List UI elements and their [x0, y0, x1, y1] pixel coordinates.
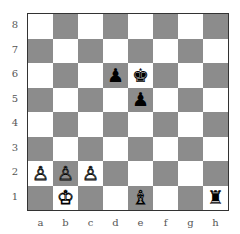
- square-g5[interactable]: [178, 88, 203, 113]
- square-a6[interactable]: [28, 63, 53, 88]
- white-pawn-icon[interactable]: ♙: [82, 164, 99, 183]
- square-e4[interactable]: [128, 112, 153, 137]
- chess-board: ♟♚♟♙♙♙♔♗♜: [27, 13, 229, 211]
- square-b2[interactable]: ♙: [53, 161, 78, 186]
- square-d6[interactable]: ♟: [103, 63, 128, 88]
- square-h1[interactable]: ♜: [203, 186, 228, 211]
- square-b5[interactable]: [53, 88, 78, 113]
- square-h7[interactable]: [203, 39, 228, 64]
- white-pawn-icon[interactable]: ♙: [57, 164, 74, 183]
- black-pawn-icon[interactable]: ♟: [132, 90, 149, 109]
- square-d1[interactable]: [103, 186, 128, 211]
- square-b6[interactable]: [53, 63, 78, 88]
- square-h4[interactable]: [203, 112, 228, 137]
- square-d8[interactable]: [103, 14, 128, 39]
- square-h8[interactable]: [203, 14, 228, 39]
- square-f8[interactable]: [153, 14, 178, 39]
- square-b3[interactable]: [53, 137, 78, 162]
- square-a3[interactable]: [28, 137, 53, 162]
- square-f5[interactable]: [153, 88, 178, 113]
- file-label-h: h: [203, 217, 228, 228]
- square-b8[interactable]: [53, 14, 78, 39]
- black-king-icon[interactable]: ♚: [132, 66, 149, 85]
- square-e7[interactable]: [128, 39, 153, 64]
- rank-label-1: 1: [8, 191, 22, 202]
- square-g4[interactable]: [178, 112, 203, 137]
- square-c1[interactable]: [78, 186, 103, 211]
- rank-label-2: 2: [8, 166, 22, 177]
- white-bishop-icon[interactable]: ♗: [132, 188, 149, 207]
- file-label-b: b: [53, 217, 78, 228]
- square-e2[interactable]: [128, 161, 153, 186]
- square-b1[interactable]: ♔: [53, 186, 78, 211]
- rank-label-6: 6: [8, 68, 22, 79]
- square-b7[interactable]: [53, 39, 78, 64]
- rank-label-4: 4: [8, 117, 22, 128]
- square-c2[interactable]: ♙: [78, 161, 103, 186]
- square-g8[interactable]: [178, 14, 203, 39]
- square-a1[interactable]: [28, 186, 53, 211]
- square-d4[interactable]: [103, 112, 128, 137]
- white-king-icon[interactable]: ♔: [57, 188, 74, 207]
- file-label-a: a: [28, 217, 53, 228]
- square-f1[interactable]: [153, 186, 178, 211]
- square-h5[interactable]: [203, 88, 228, 113]
- square-a4[interactable]: [28, 112, 53, 137]
- white-pawn-icon[interactable]: ♙: [32, 164, 49, 183]
- square-g6[interactable]: [178, 63, 203, 88]
- file-label-f: f: [153, 217, 178, 228]
- square-a7[interactable]: [28, 39, 53, 64]
- file-label-d: d: [103, 217, 128, 228]
- square-e8[interactable]: [128, 14, 153, 39]
- square-c4[interactable]: [78, 112, 103, 137]
- file-label-e: e: [128, 217, 153, 228]
- square-f3[interactable]: [153, 137, 178, 162]
- square-d5[interactable]: [103, 88, 128, 113]
- square-c6[interactable]: [78, 63, 103, 88]
- black-pawn-icon[interactable]: ♟: [107, 66, 124, 85]
- square-a2[interactable]: ♙: [28, 161, 53, 186]
- square-e6[interactable]: ♚: [128, 63, 153, 88]
- square-a8[interactable]: [28, 14, 53, 39]
- rank-label-3: 3: [8, 142, 22, 153]
- square-f7[interactable]: [153, 39, 178, 64]
- rank-label-5: 5: [8, 93, 22, 104]
- square-c5[interactable]: [78, 88, 103, 113]
- square-d3[interactable]: [103, 137, 128, 162]
- square-f6[interactable]: [153, 63, 178, 88]
- square-c7[interactable]: [78, 39, 103, 64]
- square-f2[interactable]: [153, 161, 178, 186]
- square-e1[interactable]: ♗: [128, 186, 153, 211]
- square-g3[interactable]: [178, 137, 203, 162]
- square-e3[interactable]: [128, 137, 153, 162]
- square-g2[interactable]: [178, 161, 203, 186]
- rank-label-7: 7: [8, 44, 22, 55]
- square-d7[interactable]: [103, 39, 128, 64]
- square-h2[interactable]: [203, 161, 228, 186]
- square-h3[interactable]: [203, 137, 228, 162]
- square-a5[interactable]: [28, 88, 53, 113]
- file-label-g: g: [178, 217, 203, 228]
- square-c3[interactable]: [78, 137, 103, 162]
- black-rook-icon[interactable]: ♜: [207, 188, 224, 207]
- square-c8[interactable]: [78, 14, 103, 39]
- square-e5[interactable]: ♟: [128, 88, 153, 113]
- square-g7[interactable]: [178, 39, 203, 64]
- file-label-c: c: [78, 217, 103, 228]
- square-h6[interactable]: [203, 63, 228, 88]
- rank-label-8: 8: [8, 19, 22, 30]
- square-b4[interactable]: [53, 112, 78, 137]
- square-d2[interactable]: [103, 161, 128, 186]
- square-g1[interactable]: [178, 186, 203, 211]
- square-f4[interactable]: [153, 112, 178, 137]
